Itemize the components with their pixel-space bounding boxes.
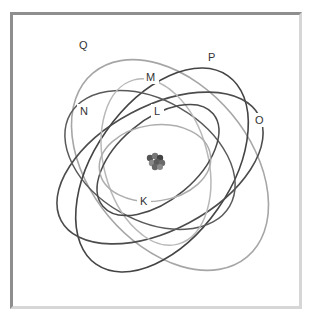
nucleus: [147, 153, 165, 170]
shell-label-l: L: [154, 105, 160, 117]
shell-p-orbit: [40, 37, 283, 303]
atom-diagram: K L M N O P Q: [0, 0, 316, 321]
shell-label-p: P: [208, 51, 215, 63]
shell-label-n: N: [80, 105, 88, 117]
shell-label-o: O: [255, 114, 264, 126]
shell-label-m: M: [146, 71, 155, 83]
shell-label-k: K: [140, 195, 148, 207]
shell-label-q: Q: [79, 39, 88, 51]
